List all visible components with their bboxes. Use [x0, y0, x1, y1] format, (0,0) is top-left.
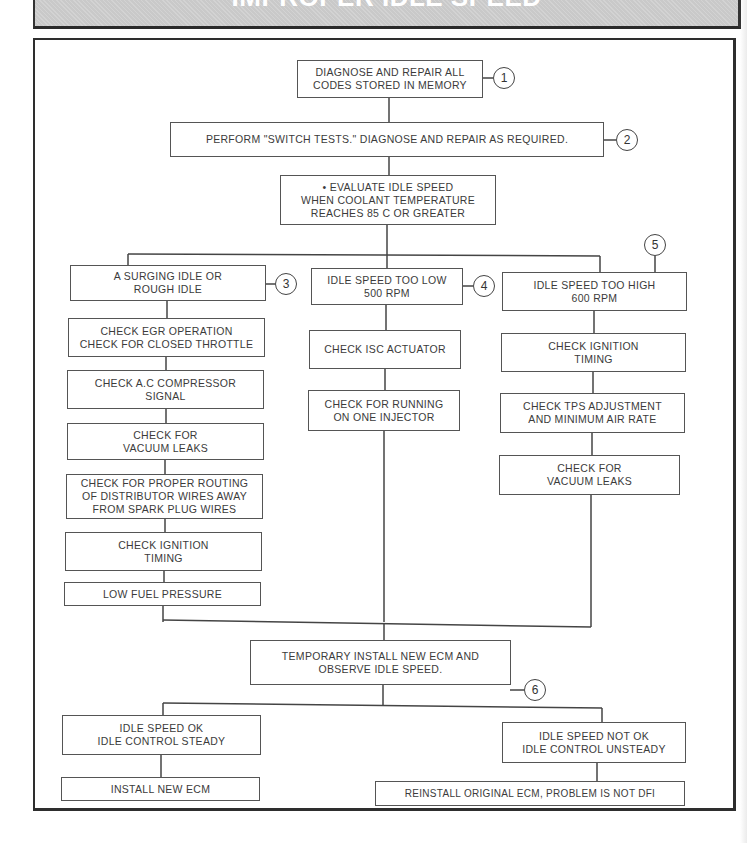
callout-3: 3 — [275, 273, 297, 295]
branch-surging-idle: A SURGING IDLE OR ROUGH IDLE — [70, 265, 266, 301]
callout-1: 1 — [493, 67, 515, 89]
title-banner: IMPROPER IDLE SPEED — [33, 0, 741, 29]
action-install-new-ecm: INSTALL NEW ECM — [61, 777, 260, 801]
step-check-tps-adjustment: CHECK TPS ADJUSTMENT AND MINIMUM AIR RAT… — [500, 393, 685, 433]
step-low-fuel-pressure: LOW FUEL PRESSURE — [64, 582, 261, 606]
callout-5: 5 — [644, 234, 666, 256]
step-diagnose-codes: DIAGNOSE AND REPAIR ALL CODES STORED IN … — [297, 60, 483, 98]
page-title: IMPROPER IDLE SPEED — [35, 0, 738, 13]
outcome-idle-not-ok: IDLE SPEED NOT OK IDLE CONTROL UNSTEADY — [502, 722, 686, 763]
step-check-vacuum-leaks-left: CHECK FOR VACUUM LEAKS — [67, 423, 264, 460]
branch-idle-too-high: IDLE SPEED TOO HIGH 600 RPM — [502, 272, 687, 311]
step-check-one-injector: CHECK FOR RUNNING ON ONE INJECTOR — [308, 390, 460, 431]
page-edge-shadow — [740, 0, 747, 843]
callout-4: 4 — [473, 275, 495, 297]
step-check-isc-actuator: CHECK ISC ACTUATOR — [309, 330, 461, 369]
step-check-ignition-timing-left: CHECK IGNITION TIMING — [65, 532, 262, 571]
step-evaluate-idle: • EVALUATE IDLE SPEED WHEN COOLANT TEMPE… — [280, 175, 496, 225]
step-check-ac-compressor: CHECK A.C COMPRESSOR SIGNAL — [67, 370, 264, 409]
step-check-vacuum-leaks-right: CHECK FOR VACUUM LEAKS — [499, 455, 680, 495]
step-check-ignition-timing-right: CHECK IGNITION TIMING — [501, 333, 686, 372]
callout-2: 2 — [616, 129, 638, 151]
action-reinstall-original-ecm: REINSTALL ORIGINAL ECM, PROBLEM IS NOT D… — [375, 781, 685, 806]
branch-idle-too-low: IDLE SPEED TOO LOW 500 RPM — [311, 268, 463, 305]
outcome-idle-ok: IDLE SPEED OK IDLE CONTROL STEADY — [62, 715, 261, 755]
step-check-distributor-routing: CHECK FOR PROPER ROUTING OF DISTRIBUTOR … — [66, 474, 263, 519]
step-switch-tests: PERFORM "SWITCH TESTS." DIAGNOSE AND REP… — [170, 122, 604, 157]
step-temporary-new-ecm: TEMPORARY INSTALL NEW ECM AND OBSERVE ID… — [250, 640, 511, 685]
callout-6: 6 — [524, 679, 546, 701]
step-check-egr: CHECK EGR OPERATION CHECK FOR CLOSED THR… — [68, 318, 265, 357]
